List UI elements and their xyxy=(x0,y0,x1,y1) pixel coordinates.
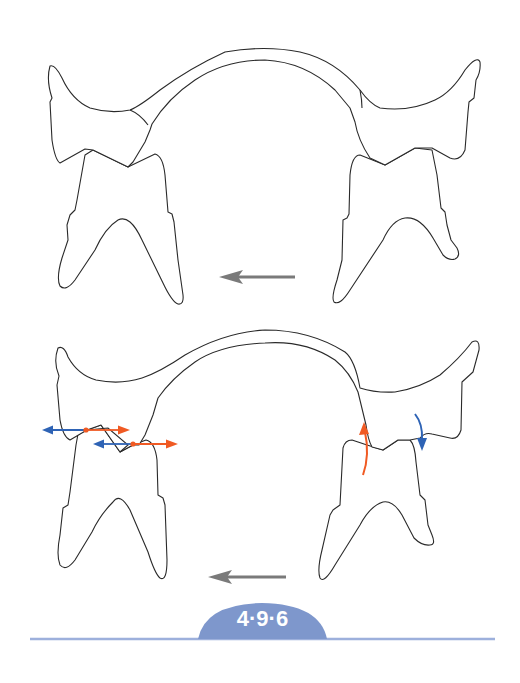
top-panel xyxy=(48,49,480,305)
lower-left-tooth xyxy=(58,425,167,579)
blue-arrow-left-icon xyxy=(42,426,53,435)
figure-number: 4·9·6 xyxy=(198,606,327,632)
lower-left-tooth xyxy=(58,150,183,304)
orange-arrow-right-icon xyxy=(166,440,178,449)
contact-dot xyxy=(83,427,88,432)
movement-arrow-left-icon xyxy=(208,570,286,584)
movement-arrow-left-icon xyxy=(219,270,295,284)
lower-right-tooth xyxy=(319,440,434,579)
bottom-panel xyxy=(42,330,479,584)
diagram-canvas xyxy=(0,0,520,683)
lower-right-tooth xyxy=(333,148,459,303)
contact-dot xyxy=(130,441,135,446)
